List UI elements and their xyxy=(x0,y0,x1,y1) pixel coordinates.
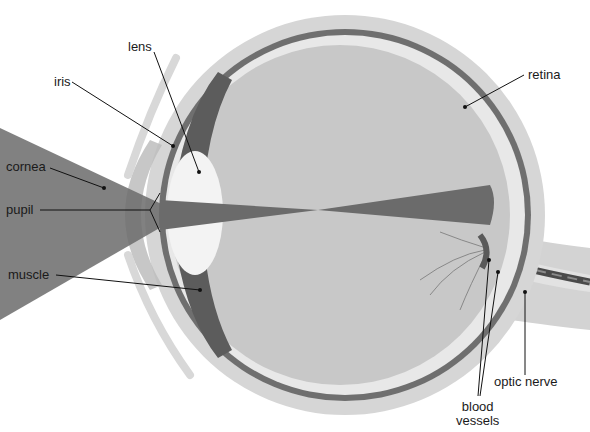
label-retina: retina xyxy=(528,68,561,82)
label-blood-vessels: blood vessels xyxy=(456,400,499,428)
label-pupil: pupil xyxy=(6,203,33,217)
label-muscle: muscle xyxy=(8,268,49,282)
label-optic-nerve: optic nerve xyxy=(494,375,558,389)
label-cornea: cornea xyxy=(6,160,46,174)
eye-cross-section-illustration xyxy=(0,0,590,432)
label-iris: iris xyxy=(54,75,71,89)
label-lens: lens xyxy=(128,40,152,54)
